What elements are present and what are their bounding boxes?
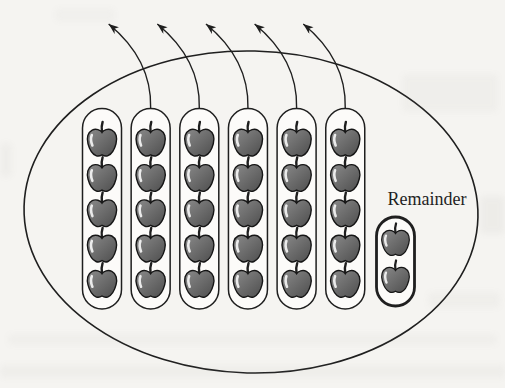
apple-group [326,109,365,310]
group-arrow [303,24,345,108]
apple-groups [83,109,365,310]
remainder-group [377,217,415,306]
group-arrow [255,24,297,108]
apple-group [228,109,267,310]
apple-group [83,109,122,310]
apple-group [131,109,170,310]
group-arrow [157,24,199,108]
group-arrows [109,24,346,108]
apple-group [277,109,316,310]
group-arrow [109,24,151,108]
figure-canvas: Remainder [0,0,505,388]
division-remainder-diagram: Remainder [0,0,505,388]
remainder-label: Remainder [388,189,467,209]
apple-group [180,109,219,310]
group-arrow [206,24,248,108]
